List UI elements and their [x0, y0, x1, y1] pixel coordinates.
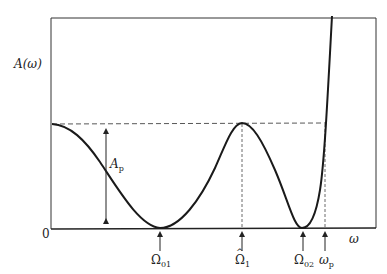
- x-axis-label: ω: [349, 232, 359, 246]
- ripple-level-dashed-line: [52, 123, 325, 124]
- amplitude-response-diagram: A(ω) 0 ω Ap Ω01 ^ Ω1 Ω02 ωp: [0, 0, 387, 274]
- x-axis-line: [51, 228, 376, 229]
- omega01-label: Ω01: [151, 253, 171, 269]
- omega1hat-label: Ω1: [235, 253, 250, 269]
- omegap-label: ωp: [319, 253, 334, 269]
- ripple-amplitude-label: Ap: [109, 157, 124, 173]
- y-axis-label: A(ω): [13, 57, 42, 71]
- amplitude-curve: [52, 16, 332, 228]
- origin-label: 0: [42, 227, 50, 241]
- omega02-label: Ω02: [294, 253, 314, 269]
